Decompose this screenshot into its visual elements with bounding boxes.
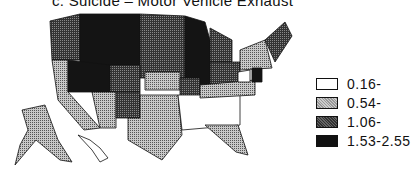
- state-mn-wi-ia: [185, 16, 210, 88]
- legend-label: 1.06-: [347, 114, 381, 130]
- state-nv-ut: [68, 60, 110, 92]
- state-fl: [205, 125, 248, 155]
- state-wa-or: [50, 14, 80, 60]
- legend-item: 1.06-: [316, 112, 411, 131]
- legend-label: 0.16-: [347, 76, 381, 92]
- us-choropleth-map: [0, 0, 300, 172]
- legend-swatch-light: [316, 97, 338, 109]
- state-md: [252, 68, 262, 82]
- legend-swatch-white: [316, 78, 338, 90]
- legend-item: 0.54-: [316, 93, 411, 112]
- state-hi: [78, 135, 108, 162]
- legend-item: 0.16-: [316, 74, 411, 93]
- map-legend: 0.16- 0.54- 1.06- 1.53-2.55: [316, 74, 411, 150]
- state-id-mt-wy: [80, 14, 140, 65]
- state-co: [110, 65, 140, 92]
- state-ak: [15, 105, 72, 165]
- legend-swatch-black: [316, 135, 338, 147]
- state-wv: [238, 70, 250, 82]
- state-ks: [145, 72, 180, 90]
- legend-item: 1.53-2.55: [316, 131, 411, 150]
- legend-label: 0.54-: [347, 95, 381, 111]
- legend-label: 1.53-2.55: [347, 133, 411, 149]
- state-mi: [210, 28, 232, 62]
- state-nm: [116, 92, 140, 118]
- state-nd-sd-ne: [140, 14, 185, 78]
- legend-swatch-dark: [316, 116, 338, 128]
